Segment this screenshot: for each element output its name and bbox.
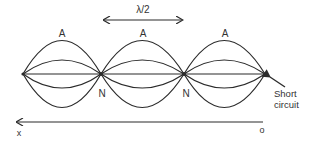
short-circuit-pointer-arrow [270, 77, 285, 87]
axis-origin-label: o [259, 125, 264, 135]
standing-wave-curves [23, 41, 265, 108]
wave-envelope-inner-bottom [23, 74, 101, 88]
short-circuit-label-line1: Short [274, 88, 297, 99]
wave-envelope-outer-top [184, 41, 265, 75]
wave-envelope-outer-bottom [23, 74, 101, 108]
antinode-label: A [59, 28, 66, 39]
end-node-dot [21, 72, 24, 75]
wave-envelope-outer-bottom [101, 74, 184, 108]
wave-envelope-inner-top [184, 60, 265, 74]
node-dot [182, 72, 186, 76]
wave-envelope-outer-bottom [184, 74, 265, 108]
wave-envelope-outer-top [101, 41, 184, 75]
node-dot [99, 72, 103, 76]
antinode-label: A [222, 28, 229, 39]
wave-envelope-inner-bottom [101, 74, 184, 88]
standing-wave-diagram: λ/2 A A A N N Short circuit x o [0, 0, 315, 145]
wave-envelope-outer-top [23, 41, 101, 75]
short-circuit-node-dot [263, 72, 266, 75]
wave-envelope-inner-bottom [184, 74, 265, 88]
antinode-label: A [140, 28, 147, 39]
half-wavelength-label: λ/2 [136, 4, 150, 15]
short-circuit-label-line2: circuit [274, 99, 299, 110]
axis-x-label: x [17, 128, 22, 138]
wave-envelope-inner-top [101, 60, 184, 74]
node-label: N [182, 88, 189, 99]
node-label: N [98, 88, 105, 99]
wave-envelope-inner-top [23, 60, 101, 74]
